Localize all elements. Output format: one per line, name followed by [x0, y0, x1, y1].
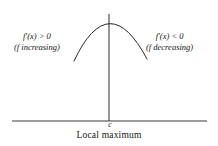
local-maximum-figure: f′(x) > 0 (f increasing) f′(x) < 0 (f de…	[0, 0, 218, 146]
figure-caption: Local maximum	[0, 130, 218, 140]
left-annotation: f′(x) > 0 (f increasing)	[14, 31, 60, 53]
right-derivative-expression: f′(x) < 0	[146, 31, 193, 42]
parabola-curve	[74, 23, 147, 61]
left-derivative-expression: f′(x) > 0	[14, 31, 60, 42]
left-behavior-text: (f increasing)	[14, 42, 60, 53]
right-annotation: f′(x) < 0 (f decreasing)	[146, 31, 193, 53]
right-behavior-text: (f decreasing)	[146, 42, 193, 53]
critical-point-label: c	[104, 120, 116, 129]
